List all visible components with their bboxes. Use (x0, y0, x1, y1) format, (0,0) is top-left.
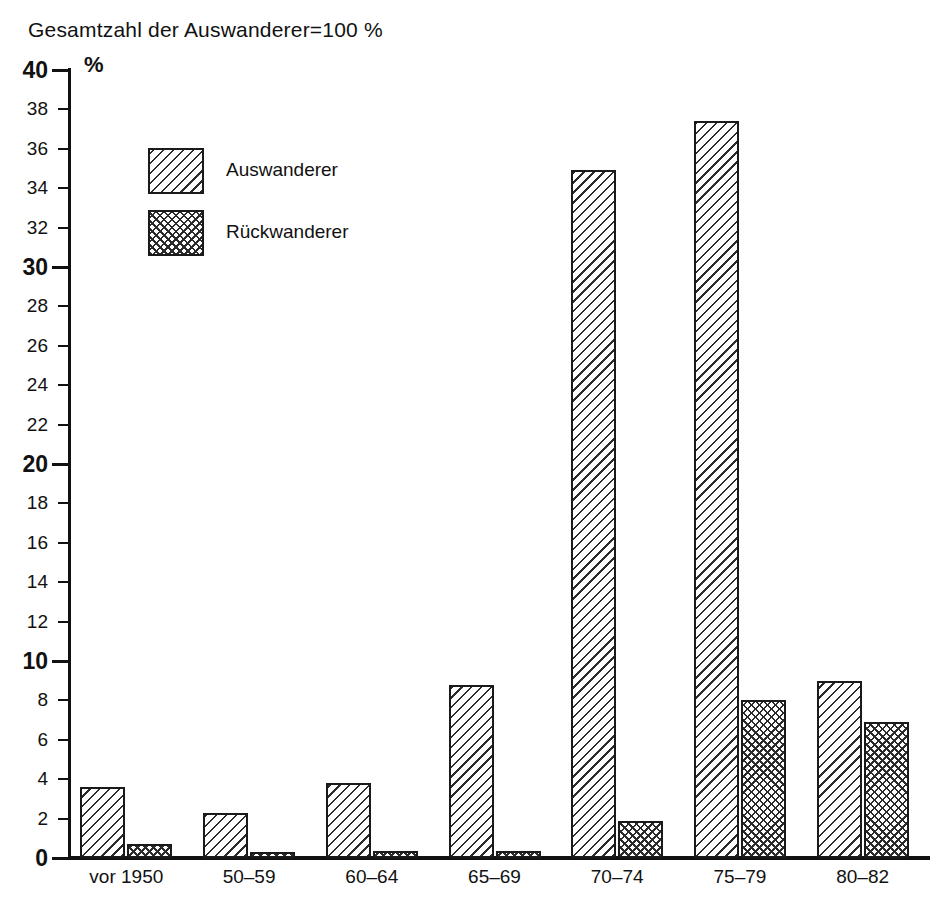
bar-auswanderer (694, 121, 739, 858)
y-axis-tick-label: 14 (0, 571, 48, 593)
y-axis-tick-label: 36 (0, 138, 48, 160)
chart-root: Gesamtzahl der Auswanderer=100 % % 02468… (0, 0, 931, 901)
y-axis-tick (58, 187, 69, 189)
y-axis-tick-label: 12 (0, 611, 48, 633)
x-axis-category-label: 65–69 (468, 866, 521, 888)
x-axis-category-label: 80–82 (836, 866, 889, 888)
y-axis-tick-label: 2 (0, 808, 48, 830)
bar-rueckwanderer (496, 851, 541, 858)
y-axis-tick-label: 6 (0, 729, 48, 751)
bar-auswanderer (571, 170, 616, 858)
y-axis-tick (58, 542, 69, 544)
y-axis-tick (58, 148, 69, 150)
y-axis-tick-label: 32 (0, 217, 48, 239)
y-axis-tick (58, 699, 69, 701)
y-axis-tick-label: 26 (0, 335, 48, 357)
y-axis-tick (58, 305, 69, 307)
x-axis-category-label: vor 1950 (89, 866, 163, 888)
bar-rueckwanderer (741, 700, 786, 858)
legend-label-rueckwanderer: Rückwanderer (226, 221, 349, 243)
y-axis-tick (58, 739, 69, 741)
y-axis-tick (58, 345, 69, 347)
bar-rueckwanderer (127, 844, 172, 858)
y-axis-tick-label: 0 (0, 845, 48, 872)
bar-auswanderer (203, 813, 248, 858)
y-axis-tick (58, 818, 69, 820)
y-axis-tick-label: 4 (0, 768, 48, 790)
bar-rueckwanderer (250, 852, 295, 858)
y-axis-tick (58, 424, 69, 426)
x-axis-category-label: 70–74 (591, 866, 644, 888)
x-axis-category-label: 60–64 (345, 866, 398, 888)
bar-rueckwanderer (618, 821, 663, 858)
bar-auswanderer (817, 681, 862, 858)
bar-auswanderer (326, 783, 371, 858)
legend-swatch-cross-hatch-icon (148, 210, 204, 256)
y-axis-tick-label: 20 (0, 451, 48, 478)
y-axis-tick (52, 660, 69, 663)
y-axis-tick (58, 581, 69, 583)
y-axis-tick-label: 30 (0, 254, 48, 281)
y-axis-tick (58, 108, 69, 110)
y-axis-tick-label: 18 (0, 492, 48, 514)
y-axis-tick (52, 69, 69, 72)
plot-area: 0246810121416182022242628303234363840 vo… (0, 0, 931, 901)
y-axis-tick (52, 857, 69, 860)
y-axis-tick-label: 8 (0, 689, 48, 711)
bar-auswanderer (449, 685, 494, 858)
y-axis-tick-label: 24 (0, 374, 48, 396)
y-axis-tick-label: 22 (0, 414, 48, 436)
y-axis-tick-label: 40 (0, 57, 48, 84)
y-axis-tick-label: 34 (0, 177, 48, 199)
bar-auswanderer (80, 787, 125, 858)
legend-swatch-diagonal-hatch-icon (148, 148, 204, 194)
legend-label-auswanderer: Auswanderer (226, 159, 338, 181)
y-axis-tick (52, 463, 69, 466)
x-axis-category-label: 50–59 (223, 866, 276, 888)
y-axis-tick (52, 266, 69, 269)
bar-rueckwanderer (373, 851, 418, 858)
y-axis-tick-label: 28 (0, 295, 48, 317)
y-axis-tick-label: 10 (0, 648, 48, 675)
x-axis-category-label: 75–79 (714, 866, 767, 888)
y-axis-tick-label: 16 (0, 532, 48, 554)
y-axis-tick (58, 621, 69, 623)
y-axis-tick (58, 227, 69, 229)
y-axis-tick-label: 38 (0, 98, 48, 120)
y-axis-tick (58, 778, 69, 780)
y-axis-tick (58, 384, 69, 386)
bar-rueckwanderer (864, 722, 909, 858)
y-axis-tick (58, 502, 69, 504)
